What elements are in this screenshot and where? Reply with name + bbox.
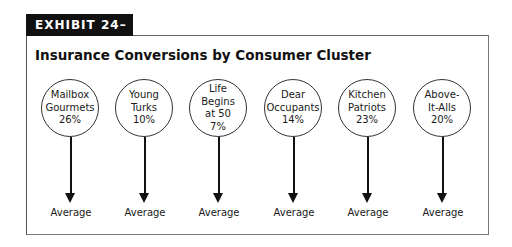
cluster-name-line: Begins xyxy=(201,96,235,109)
average-label: Average xyxy=(403,207,483,218)
cluster-circle: Above- It-Alls 20% xyxy=(413,79,471,137)
cluster-node: Kitchen Patriots 23% Average xyxy=(338,79,398,137)
cluster-name-line: at 50 xyxy=(205,108,231,121)
arrow-down-icon xyxy=(437,193,447,203)
average-label: Average xyxy=(31,207,111,218)
cluster-name-line: Kitchen xyxy=(348,89,386,102)
arrow-down-icon xyxy=(362,193,372,203)
cluster-circle: Life Begins at 50 7% xyxy=(189,79,247,137)
cluster-node: Life Begins at 50 7% Average xyxy=(189,79,249,137)
arrow-down-icon xyxy=(288,193,298,203)
arrow-shaft xyxy=(293,137,295,195)
cluster-circle: Mailbox Gourmets 26% xyxy=(41,79,99,137)
arrow-shaft xyxy=(218,137,220,195)
cluster-name-line: Young xyxy=(129,89,159,102)
arrow-down-icon xyxy=(139,193,149,203)
cluster-percent: 10% xyxy=(133,114,155,127)
exhibit-label: EXHIBIT 24–7 xyxy=(26,14,133,36)
cluster-name-line: Occupants xyxy=(266,102,319,115)
cluster-percent: 14% xyxy=(282,114,304,127)
average-label: Average xyxy=(254,207,334,218)
average-label: Average xyxy=(179,207,259,218)
cluster-name-line: Turks xyxy=(131,102,157,115)
cluster-name-line: Dear xyxy=(281,89,305,102)
cluster-name-line: It-Alls xyxy=(428,102,456,115)
average-label: Average xyxy=(105,207,185,218)
cluster-node: Dear Occupants 14% Average xyxy=(264,79,324,137)
cluster-name-line: Above- xyxy=(425,89,460,102)
cluster-circle: Kitchen Patriots 23% xyxy=(338,79,396,137)
arrow-down-icon xyxy=(213,193,223,203)
cluster-node: Above- It-Alls 20% Average xyxy=(413,79,473,137)
cluster-circle: Young Turks 10% xyxy=(115,79,173,137)
cluster-name-line: Mailbox xyxy=(51,89,89,102)
cluster-percent: 26% xyxy=(59,114,81,127)
cluster-node: Young Turks 10% Average xyxy=(115,79,175,137)
cluster-node: Mailbox Gourmets 26% Average xyxy=(41,79,101,137)
arrow-shaft xyxy=(442,137,444,195)
arrow-shaft xyxy=(144,137,146,195)
arrow-shaft xyxy=(367,137,369,195)
cluster-name-line: Gourmets xyxy=(45,102,94,115)
arrow-down-icon xyxy=(65,193,75,203)
arrow-shaft xyxy=(70,137,72,195)
cluster-circle: Dear Occupants 14% xyxy=(264,79,322,137)
cluster-name-line: Patriots xyxy=(348,102,386,115)
diagram-title: Insurance Conversions by Consumer Cluste… xyxy=(35,47,371,63)
cluster-percent: 7% xyxy=(210,121,226,134)
cluster-percent: 20% xyxy=(431,114,453,127)
cluster-percent: 23% xyxy=(356,114,378,127)
average-label: Average xyxy=(328,207,408,218)
cluster-name-line: Life xyxy=(209,83,227,96)
